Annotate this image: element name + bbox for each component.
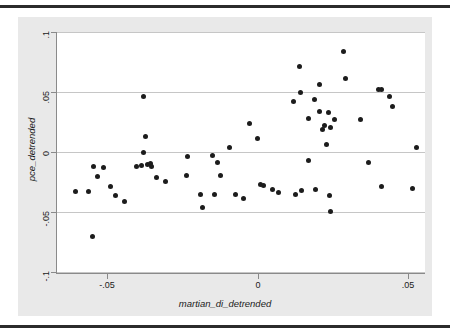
- scatter-point: [141, 150, 146, 155]
- scatter-point: [149, 164, 154, 169]
- scatter-point: [306, 116, 311, 121]
- scatter-point: [198, 192, 203, 197]
- scatter-point: [326, 110, 331, 115]
- scatter-point: [414, 145, 419, 150]
- y-axis-line: [56, 32, 57, 273]
- scatter-point: [324, 142, 329, 147]
- scatter-point: [312, 97, 317, 102]
- scatter-point: [154, 175, 159, 180]
- scatter-point: [241, 196, 246, 201]
- scatter-point: [215, 160, 220, 165]
- plot-region: [57, 32, 425, 272]
- y-tick-mark: [51, 32, 56, 33]
- y-tick-label: -.05: [41, 211, 51, 227]
- scatter-plot-figure: -.1-.050.05.1 -.050.05 pce_detrended mar…: [18, 17, 432, 316]
- scatter-point: [379, 87, 384, 92]
- gridline-y: [57, 212, 425, 213]
- x-tick-mark: [107, 274, 108, 279]
- scatter-point: [313, 187, 318, 192]
- scatter-point: [90, 234, 95, 239]
- screenshot-page: -.1-.050.05.1 -.050.05 pce_detrended mar…: [0, 0, 450, 333]
- scatter-point: [233, 192, 238, 197]
- scatter-point: [108, 184, 113, 189]
- scatter-point: [387, 94, 392, 99]
- scatter-point: [101, 165, 106, 170]
- scatter-point: [293, 192, 298, 197]
- scatter-point: [297, 64, 302, 69]
- scatter-point: [73, 189, 78, 194]
- scatter-point: [113, 193, 118, 198]
- scatter-point: [139, 163, 144, 168]
- x-axis-title: martian_di_detrended: [18, 298, 432, 309]
- scatter-point: [341, 49, 346, 54]
- scatter-point: [390, 104, 395, 109]
- gridline-y: [57, 32, 425, 33]
- scatter-point: [328, 125, 333, 130]
- scatter-point: [261, 183, 266, 188]
- y-axis-title: pce_detrended: [26, 100, 37, 200]
- scatter-point: [86, 189, 91, 194]
- scatter-point: [343, 76, 348, 81]
- x-tick-label: 0: [255, 280, 260, 290]
- scatter-point: [218, 173, 223, 178]
- scatter-point: [122, 199, 127, 204]
- x-tick-label: .05: [402, 280, 415, 290]
- x-tick-mark: [408, 274, 409, 279]
- scatter-point: [306, 158, 311, 163]
- scatter-point: [255, 136, 260, 141]
- scatter-point: [134, 164, 139, 169]
- scatter-point: [185, 154, 190, 159]
- scatter-point: [270, 187, 275, 192]
- y-tick-label: -.1: [41, 271, 51, 282]
- scatter-point: [317, 109, 322, 114]
- scatter-point: [184, 173, 189, 178]
- scatter-point: [212, 192, 217, 197]
- top-horizontal-rule: [0, 5, 450, 8]
- scatter-point: [247, 121, 252, 126]
- y-tick-label: .1: [41, 31, 51, 39]
- scatter-point: [291, 99, 296, 104]
- y-tick-label: 0: [41, 151, 51, 156]
- scatter-point: [327, 193, 332, 198]
- y-tick-mark: [51, 92, 56, 93]
- scatter-point: [91, 164, 96, 169]
- scatter-point: [298, 90, 303, 95]
- scatter-point: [95, 174, 100, 179]
- scatter-point: [410, 186, 415, 191]
- gridline-y: [57, 152, 425, 153]
- scatter-point: [328, 209, 333, 214]
- x-axis-line: [56, 273, 425, 274]
- y-tick-mark: [51, 212, 56, 213]
- y-tick-mark: [51, 272, 56, 273]
- scatter-point: [210, 153, 215, 158]
- scatter-point: [358, 117, 363, 122]
- scatter-point: [332, 117, 337, 122]
- scatter-point: [366, 160, 371, 165]
- y-tick-label: .05: [41, 91, 51, 104]
- scatter-point: [299, 188, 304, 193]
- scatter-point: [322, 123, 327, 128]
- bottom-horizontal-rule: [0, 325, 450, 328]
- y-tick-mark: [51, 152, 56, 153]
- scatter-point: [379, 184, 384, 189]
- scatter-point: [276, 190, 281, 195]
- plot-container: -.1-.050.05.1 -.050.05 pce_detrended mar…: [18, 17, 432, 316]
- scatter-point: [143, 134, 148, 139]
- scatter-point: [200, 205, 205, 210]
- scatter-point: [141, 94, 146, 99]
- scatter-point: [163, 179, 168, 184]
- x-tick-mark: [258, 274, 259, 279]
- scatter-point: [227, 145, 232, 150]
- scatter-point: [317, 82, 322, 87]
- gridline-y: [57, 92, 425, 93]
- x-tick-label: -.05: [99, 280, 115, 290]
